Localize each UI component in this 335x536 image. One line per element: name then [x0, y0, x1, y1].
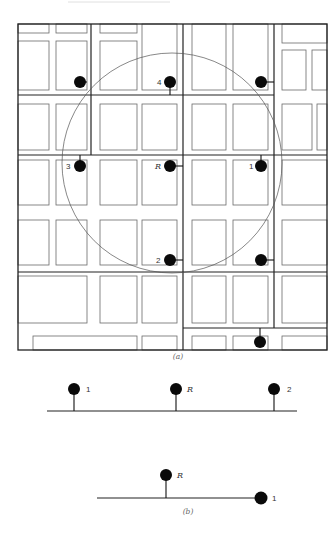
location-dot-icon — [255, 160, 267, 172]
city-map: 4 3 R 1 2 — [18, 2, 327, 361]
location-dot-icon — [164, 160, 176, 172]
location-dot-icon — [74, 76, 86, 88]
marker-1: 1 — [249, 155, 267, 172]
location-dot-icon — [164, 76, 176, 88]
caption-b: (b) — [183, 507, 194, 516]
marker-3: 3 — [66, 155, 86, 172]
location-dot-icon — [255, 254, 267, 266]
marker-s — [254, 328, 266, 348]
point-label: 1 — [86, 385, 91, 394]
blocks-row-5 — [18, 276, 327, 323]
location-dot-icon — [255, 492, 268, 505]
location-dot-icon — [74, 160, 86, 172]
location-dot-icon — [255, 76, 267, 88]
marker-ne — [255, 76, 274, 88]
point-label: 2 — [287, 385, 292, 394]
marker-label: 3 — [66, 162, 71, 171]
point-label: R — [186, 385, 193, 394]
marker-R: R — [154, 160, 183, 172]
blocks-row-6 — [33, 336, 327, 350]
marker-label: 4 — [157, 78, 162, 87]
location-dot-icon — [68, 383, 80, 395]
marker-se — [255, 254, 274, 266]
marker-label: 2 — [156, 256, 161, 265]
location-dot-icon — [170, 383, 182, 395]
point-label: R — [176, 471, 183, 480]
figure-canvas: 4 3 R 1 2 — [0, 0, 335, 536]
location-dot-icon — [160, 469, 172, 481]
marker-4: 4 — [157, 76, 176, 95]
marker-label: 1 — [249, 162, 254, 171]
marker-label: R — [154, 162, 161, 171]
linear-diagram-bottom: R 1 (b) — [97, 469, 277, 516]
linear-diagram-top: 1 R 2 — [47, 383, 297, 411]
location-dot-icon — [268, 383, 280, 395]
location-dot-icon — [164, 254, 176, 266]
location-dot-icon — [254, 336, 266, 348]
blocks-row-2 — [18, 104, 327, 150]
point-label: 1 — [272, 494, 277, 503]
caption-a: (a) — [173, 352, 183, 361]
marker-2: 2 — [156, 254, 183, 266]
